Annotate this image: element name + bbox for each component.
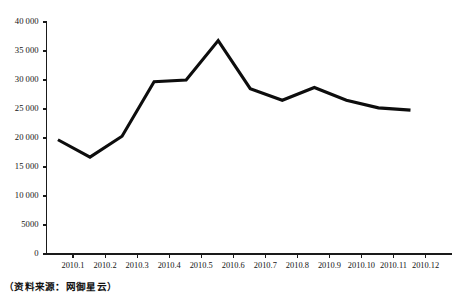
x-tick-label: 2010.7 bbox=[254, 261, 277, 270]
y-tick-label: 5000 bbox=[21, 219, 38, 229]
x-tick-label: 2010.10 bbox=[348, 261, 375, 270]
x-axis-labels: 2010.12010.22010.32010.42010.52010.62010… bbox=[61, 261, 439, 270]
x-tick-label: 2010.11 bbox=[380, 261, 407, 270]
x-tick-label: 2010.3 bbox=[126, 261, 149, 270]
x-tick-label: 2010.4 bbox=[158, 261, 182, 270]
y-tick-label: 40 000 bbox=[15, 16, 39, 26]
y-tick-label: 0 bbox=[34, 248, 38, 258]
y-tick-label: 35 000 bbox=[15, 45, 39, 55]
x-tick-label: 2010.2 bbox=[94, 261, 117, 270]
y-tick-label: 15 000 bbox=[15, 161, 39, 171]
y-tick-label: 30 000 bbox=[15, 74, 39, 84]
x-tick-label: 2010.6 bbox=[222, 261, 245, 270]
y-axis-ticks bbox=[43, 22, 47, 254]
x-tick-label: 2010.12 bbox=[412, 261, 439, 270]
x-tick-label: 2010.5 bbox=[190, 261, 213, 270]
chart-canvas: 0500010 00015 00020 00025 00030 00035 00… bbox=[0, 0, 465, 298]
data-series-line bbox=[58, 41, 411, 158]
line-chart: 0500010 00015 00020 00025 00030 00035 00… bbox=[0, 0, 465, 298]
y-tick-label: 25 000 bbox=[15, 103, 39, 113]
y-axis-labels: 0500010 00015 00020 00025 00030 00035 00… bbox=[15, 16, 39, 258]
y-tick-label: 10 000 bbox=[15, 190, 39, 200]
x-axis-ticks bbox=[73, 254, 426, 258]
chart-axes bbox=[47, 22, 453, 254]
x-tick-label: 2010.1 bbox=[61, 261, 84, 270]
source-attribution: （资料来源：网御星云） bbox=[4, 279, 117, 293]
x-tick-label: 2010.8 bbox=[286, 261, 309, 270]
x-tick-label: 2010.9 bbox=[318, 261, 341, 270]
y-tick-label: 20 000 bbox=[15, 132, 39, 142]
